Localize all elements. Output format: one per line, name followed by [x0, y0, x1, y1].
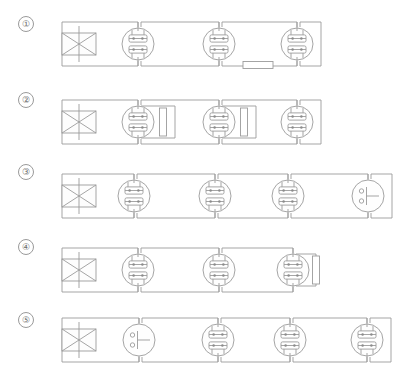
- terminal-dot: [291, 48, 294, 51]
- circuit-row-5: [62, 318, 391, 362]
- terminal-dot: [282, 189, 285, 192]
- unit-circle: [203, 28, 235, 60]
- terminal-unit-icon: [203, 248, 235, 292]
- terminal-dot: [213, 263, 216, 266]
- terminal-dot: [141, 48, 144, 51]
- terminal-dot: [213, 274, 216, 277]
- circuit-row-4: [62, 248, 320, 292]
- terminal-dot: [213, 48, 216, 51]
- terminal-unit-icon: [118, 174, 150, 218]
- unit-circle: [118, 180, 150, 212]
- terminal-dot: [213, 126, 216, 129]
- terminal-dot: [222, 115, 225, 118]
- terminal-dot: [300, 37, 303, 40]
- terminal-unit-icon: [122, 248, 154, 292]
- terminal-dot: [300, 115, 303, 118]
- terminal-dot: [132, 115, 135, 118]
- terminal-dot: [287, 263, 290, 266]
- resistor-horizontal: [243, 62, 273, 69]
- terminal-dot: [282, 200, 285, 203]
- terminal-dot: [141, 274, 144, 277]
- terminal-dot: [221, 333, 224, 336]
- terminal-unit-icon: [203, 22, 235, 66]
- terminal-dot: [291, 200, 294, 203]
- terminal-dot: [291, 37, 294, 40]
- circuit-row-2: [62, 100, 321, 144]
- terminal-dot: [132, 126, 135, 129]
- terminal-dot: [141, 115, 144, 118]
- terminal-dot: [213, 115, 216, 118]
- terminal-dot: [293, 333, 296, 336]
- terminal-unit-icon: [202, 318, 234, 362]
- circuit-row-1: [62, 22, 321, 69]
- resistor-vertical: [160, 108, 167, 136]
- terminal-dot: [222, 263, 225, 266]
- resistor-vertical: [241, 108, 248, 136]
- terminal-unit-icon: [281, 100, 313, 144]
- terminal-dot: [293, 344, 296, 347]
- diagram-canvas: [0, 0, 405, 373]
- gauge-dot-lower: [130, 343, 134, 347]
- terminal-dot: [291, 189, 294, 192]
- circuit-row-3: [62, 174, 392, 218]
- terminal-dot: [137, 200, 140, 203]
- terminal-dot: [141, 37, 144, 40]
- terminal-dot: [212, 344, 215, 347]
- unit-circle: [122, 106, 154, 138]
- terminal-dot: [222, 37, 225, 40]
- terminal-dot: [221, 344, 224, 347]
- terminal-dot: [212, 333, 215, 336]
- terminal-dot: [141, 126, 144, 129]
- gauge-unit-icon: [352, 174, 384, 218]
- unit-circle: [203, 106, 235, 138]
- terminal-dot: [222, 48, 225, 51]
- terminal-unit-icon: [277, 248, 309, 292]
- resistor-vertical: [313, 256, 320, 284]
- terminal-dot: [370, 333, 373, 336]
- terminal-dot: [291, 115, 294, 118]
- row-label-5: ⑤: [18, 312, 34, 328]
- terminal-dot: [209, 200, 212, 203]
- unit-circle: [277, 254, 309, 286]
- terminal-unit-icon: [274, 318, 306, 362]
- gauge-dot-upper: [130, 333, 134, 337]
- terminal-unit-icon: [281, 22, 313, 66]
- unit-circle: [274, 324, 306, 356]
- terminal-unit-icon: [122, 22, 154, 66]
- unit-circle: [199, 180, 231, 212]
- terminal-dot: [218, 200, 221, 203]
- gauge-dot-upper: [359, 189, 363, 193]
- row-label-1: ①: [18, 16, 34, 32]
- terminal-dot: [300, 48, 303, 51]
- terminal-dot: [370, 344, 373, 347]
- terminal-unit-icon: [351, 318, 383, 362]
- terminal-dot: [296, 263, 299, 266]
- terminal-dot: [132, 274, 135, 277]
- terminal-dot: [128, 200, 131, 203]
- gauge-unit-icon: [123, 318, 155, 362]
- terminal-dot: [141, 263, 144, 266]
- terminal-dot: [361, 344, 364, 347]
- row-label-2: ②: [18, 92, 34, 108]
- terminal-dot: [209, 189, 212, 192]
- terminal-dot: [222, 274, 225, 277]
- terminal-dot: [137, 189, 140, 192]
- terminal-dot: [128, 189, 131, 192]
- unit-circle: [122, 28, 154, 60]
- terminal-dot: [132, 48, 135, 51]
- terminal-dot: [284, 333, 287, 336]
- terminal-dot: [284, 344, 287, 347]
- unit-circle: [203, 254, 235, 286]
- row-label-4: ④: [18, 239, 34, 255]
- terminal-dot: [361, 333, 364, 336]
- terminal-unit-icon: [122, 100, 154, 144]
- terminal-unit-icon: [199, 174, 231, 218]
- unit-circle: [272, 180, 304, 212]
- terminal-dot: [300, 126, 303, 129]
- unit-circle: [281, 28, 313, 60]
- terminal-dot: [132, 37, 135, 40]
- terminal-dot: [222, 126, 225, 129]
- terminal-unit-icon: [272, 174, 304, 218]
- unit-circle: [281, 106, 313, 138]
- terminal-dot: [213, 37, 216, 40]
